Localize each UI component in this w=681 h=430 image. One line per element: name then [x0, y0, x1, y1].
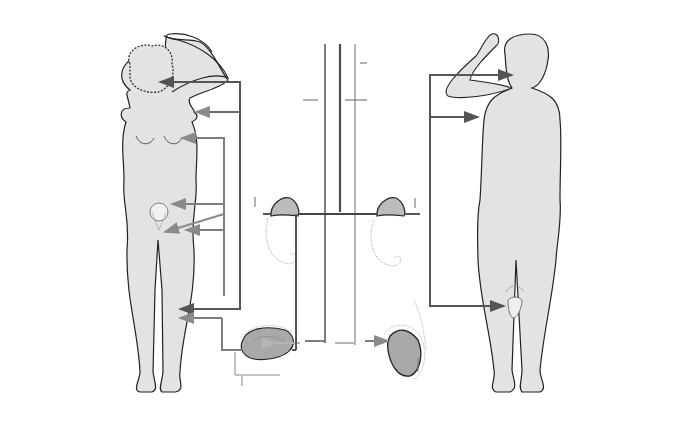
brain-hormone-lines — [303, 44, 367, 345]
gonads — [235, 298, 426, 386]
adrenal-cortices — [255, 197, 420, 266]
puberty-diagram-graphics — [0, 0, 681, 430]
female-figure — [121, 34, 228, 392]
male-figure — [446, 34, 561, 392]
